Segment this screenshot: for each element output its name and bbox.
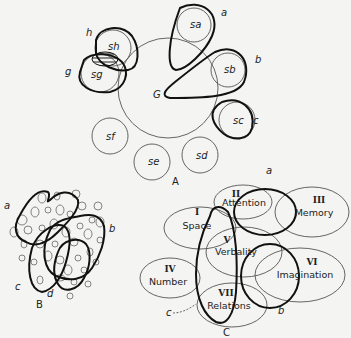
caption-a: A [172,176,179,187]
factor-attention-label: Attention [222,197,266,208]
group-label-g: g [65,66,71,77]
group-label-b-d: d [47,288,54,299]
label-sd: sd [196,150,208,161]
numeral-VII: VII [217,288,233,298]
caption-b: B [36,299,43,310]
label-sf: sf [106,131,116,142]
group-c-a-loop [234,189,296,235]
group-label-c-c: c [166,307,172,318]
label-sc: sc [233,115,244,126]
factor-memory-label: Memory [295,207,334,218]
pointer-arrow [173,304,196,313]
group-label-a: a [221,7,227,18]
label-sh: sh [108,41,120,52]
numeral-III: III [313,195,326,205]
numeral-I: I [195,207,199,217]
group-b-d-loop [54,240,89,290]
factor-diagram: sa sb sc sd se sf sg sh G a b c g h A [0,0,351,338]
group-label-c: c [253,115,259,126]
label-sa: sa [190,19,201,30]
factor-number-label: Number [149,276,187,287]
numeral-IV: IV [164,264,176,274]
label-se: se [148,156,159,167]
group-label-b-c: c [15,281,21,292]
group-label-b-a: a [4,200,10,211]
figure-c: I Space II Attention III Memory IV Numbe… [140,165,349,338]
figure-b: a b c d B [4,190,115,310]
factor-space-label: Space [183,220,212,231]
factor-imagination-label: Imagination [277,269,334,280]
figure-a: sa sb sc sd se sf sg sh G a b c g h A [65,5,261,187]
numeral-VI: VI [305,257,317,267]
label-sg: sg [91,69,103,80]
group-label-b: b [255,54,261,65]
group-label-b-b: b [109,223,115,234]
caption-c: C [223,327,230,338]
label-G: G [153,89,161,100]
label-sb: sb [224,64,236,75]
group-label-c-b: b [278,305,284,316]
numeral-V: V [223,235,232,245]
factor-relations-label: Relations [207,300,251,311]
factor-verbality-label: Verbality [215,246,257,257]
group-label-c-a: a [266,165,272,176]
group-label-h: h [86,27,92,38]
